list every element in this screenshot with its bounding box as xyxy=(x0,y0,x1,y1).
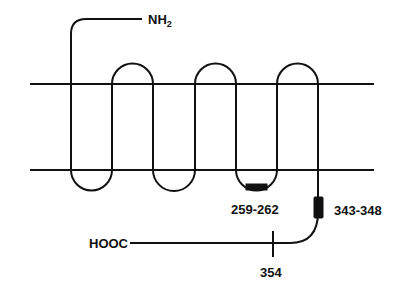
motif-343-348-label: 343-348 xyxy=(334,203,382,218)
motif-259-262-marker xyxy=(246,184,267,190)
c-terminus-label: HOOC xyxy=(89,236,129,251)
protein-chain xyxy=(71,64,318,244)
n-terminal-tail xyxy=(71,19,142,170)
residue-354-label: 354 xyxy=(260,265,282,280)
motif-259-262-label: 259-262 xyxy=(231,202,279,217)
membrane-topology-diagram: NH2 HOOC 259-262 343-348 354 xyxy=(0,0,408,302)
motif-343-348-marker xyxy=(314,197,323,218)
n-terminus-label: NH2 xyxy=(148,12,172,29)
